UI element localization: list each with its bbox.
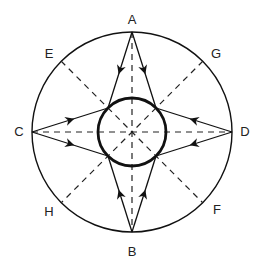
label-h: H bbox=[44, 204, 53, 219]
star-circle-diagram: A B C D E G H F bbox=[0, 0, 262, 264]
line-c-lower bbox=[32, 132, 108, 156]
label-c: C bbox=[14, 124, 23, 139]
line-b-right bbox=[132, 156, 156, 232]
line-d-lower bbox=[156, 132, 232, 156]
line-a-right bbox=[132, 32, 156, 108]
label-b: B bbox=[128, 244, 137, 259]
label-a: A bbox=[128, 12, 137, 27]
dashed-diameters bbox=[32, 32, 232, 232]
label-d: D bbox=[240, 124, 249, 139]
label-e: E bbox=[45, 46, 54, 61]
line-a-left bbox=[108, 32, 132, 108]
label-g: G bbox=[211, 46, 221, 61]
label-f: F bbox=[213, 202, 221, 217]
line-d-upper bbox=[156, 108, 232, 132]
line-b-left bbox=[108, 156, 132, 232]
line-c-upper bbox=[32, 108, 108, 132]
